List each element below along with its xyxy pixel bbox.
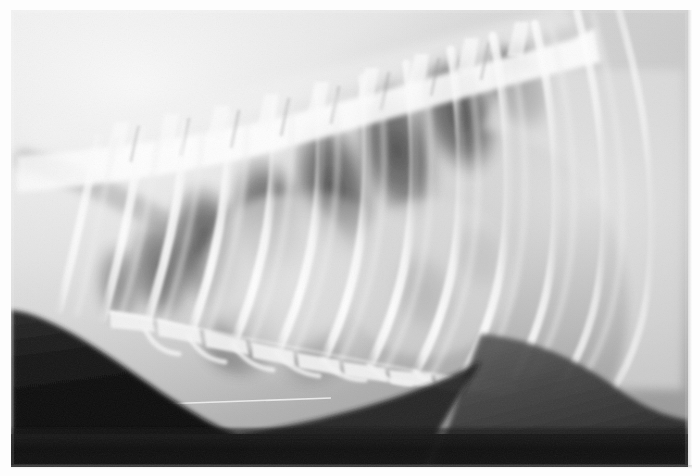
radiograph-film <box>11 10 688 467</box>
radiograph-viewer <box>0 0 700 476</box>
film-grain <box>11 10 688 467</box>
radiograph-image <box>11 10 688 467</box>
film-edge-shadow-right <box>688 10 692 467</box>
